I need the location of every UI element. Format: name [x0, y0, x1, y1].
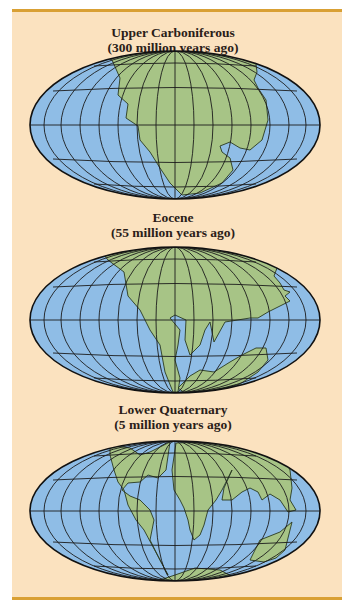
map-title: Upper Carboniferous — [0, 25, 346, 40]
map-title-eocene: Eocene (55 million years ago) — [0, 210, 346, 240]
map-title: Eocene — [0, 210, 346, 225]
map-subtitle: (5 million years ago) — [0, 417, 346, 432]
map-title-lower-quaternary: Lower Quaternary (5 million years ago) — [0, 402, 346, 432]
globe-map-upper-carboniferous — [0, 48, 346, 204]
globe-map-eocene — [0, 244, 346, 396]
map-title: Lower Quaternary — [0, 402, 346, 417]
globe-map-lower-quaternary — [0, 438, 346, 588]
map-subtitle: (55 million years ago) — [0, 225, 346, 240]
